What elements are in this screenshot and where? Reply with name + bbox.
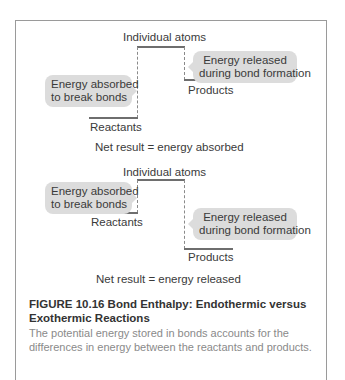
atoms-level-line [137, 46, 185, 48]
bubble-text: during bond formation [199, 67, 291, 80]
atoms-label: Individual atoms [123, 166, 206, 179]
bubble-text: Energy absorbed [51, 78, 126, 91]
release-dashed-line [184, 47, 185, 80]
energy-absorbed-bubble: Energy absorbed to break bonds [45, 182, 132, 214]
energy-absorbed-bubble: Energy absorbed to break bonds [45, 75, 132, 107]
atoms-label: Individual atoms [123, 31, 206, 44]
bubble-text: during bond formation [199, 224, 291, 237]
products-label: Products [188, 84, 233, 97]
reactants-label: Reactants [90, 121, 142, 134]
energy-released-bubble: Energy released during bond formation [193, 51, 297, 83]
bubble-tail [188, 219, 193, 229]
reactants-level-line [89, 117, 138, 119]
bubble-tail [132, 193, 137, 203]
products-label: Products [188, 251, 233, 264]
bubble-text: to break bonds [51, 198, 126, 211]
bubble-text: Energy released [199, 211, 291, 224]
net-result-released: Net result = energy released [96, 273, 241, 285]
bubble-text: to break bonds [51, 91, 126, 104]
figure-caption-title: FIGURE 10.16 Bond Enthalpy: Endothermic … [29, 297, 319, 325]
bubble-tail [132, 86, 137, 96]
products-level-line [184, 248, 233, 250]
release-dashed-line [184, 180, 185, 249]
bubble-tail [188, 62, 193, 72]
figure-caption-body: The potential energy stored in bonds acc… [29, 326, 324, 354]
bubble-text: Energy released [199, 54, 291, 67]
bubble-text: Energy absorbed [51, 185, 126, 198]
net-result-absorbed: Net result = energy absorbed [95, 141, 244, 153]
reactants-label: Reactants [91, 216, 143, 229]
atoms-level-line [137, 179, 185, 181]
energy-released-bubble: Energy released during bond formation [193, 208, 297, 240]
